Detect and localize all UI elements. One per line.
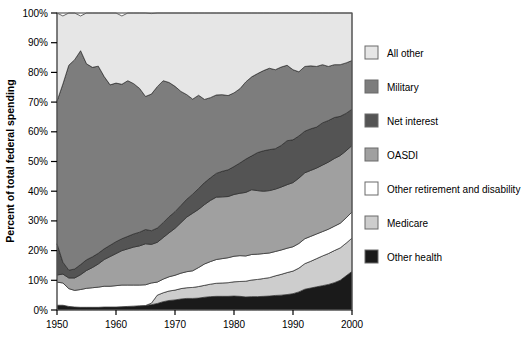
svg-text:Percent of total federal spend: Percent of total federal spending: [4, 79, 16, 242]
legend-label: All other: [387, 48, 424, 59]
legend: All otherMilitaryNet interestOASDIOther …: [365, 46, 520, 263]
legend-item-all-other[interactable]: All other: [365, 46, 424, 59]
x-tick-label: 2000: [341, 319, 364, 330]
y-tick-label: 40%: [28, 186, 48, 197]
y-tick-label: 100%: [22, 8, 48, 19]
y-tick-label: 10%: [28, 275, 48, 286]
y-tick-label: 20%: [28, 245, 48, 256]
legend-label: Other retirement and disability: [387, 184, 520, 195]
y-axis-ticks: [51, 13, 57, 310]
legend-label: Military: [387, 82, 419, 93]
x-tick-label: 1980: [223, 319, 246, 330]
stacked-area-chart: 0%10%20%30%40%50%60%70%80%90%100% 195019…: [0, 0, 529, 341]
stacked-area-bands: [57, 13, 352, 310]
y-tick-label: 90%: [28, 37, 48, 48]
legend-item-oasdi[interactable]: OASDI: [365, 148, 418, 161]
y-axis-tick-labels: 0%10%20%30%40%50%60%70%80%90%100%: [22, 8, 48, 316]
legend-item-other-retirement-and-disability[interactable]: Other retirement and disability: [365, 182, 520, 195]
legend-swatch: [365, 182, 378, 195]
legend-item-military[interactable]: Military: [365, 80, 419, 93]
y-tick-label: 50%: [28, 156, 48, 167]
y-tick-label: 0%: [34, 305, 49, 316]
y-axis-title: Percent of total federal spending: [4, 79, 16, 242]
legend-label: OASDI: [387, 150, 418, 161]
x-tick-label: 1990: [282, 319, 305, 330]
y-tick-label: 30%: [28, 215, 48, 226]
y-tick-label: 80%: [28, 67, 48, 78]
x-tick-label: 1950: [46, 319, 69, 330]
x-tick-label: 1960: [105, 319, 128, 330]
legend-swatch: [365, 216, 378, 229]
y-tick-label: 60%: [28, 126, 48, 137]
legend-item-medicare[interactable]: Medicare: [365, 216, 429, 229]
legend-swatch: [365, 250, 378, 263]
legend-item-net-interest[interactable]: Net interest: [365, 114, 438, 127]
legend-swatch: [365, 114, 378, 127]
x-tick-label: 1970: [164, 319, 187, 330]
legend-label: Other health: [387, 252, 442, 263]
legend-label: Net interest: [387, 116, 438, 127]
x-axis-ticks: [57, 310, 352, 315]
x-axis-tick-labels: 195019601970198019902000: [46, 319, 364, 330]
legend-label: Medicare: [387, 218, 429, 229]
y-tick-label: 70%: [28, 97, 48, 108]
legend-item-other-health[interactable]: Other health: [365, 250, 442, 263]
legend-swatch: [365, 46, 378, 59]
legend-swatch: [365, 80, 378, 93]
chart-figure: 0%10%20%30%40%50%60%70%80%90%100% 195019…: [0, 0, 529, 341]
legend-swatch: [365, 148, 378, 161]
